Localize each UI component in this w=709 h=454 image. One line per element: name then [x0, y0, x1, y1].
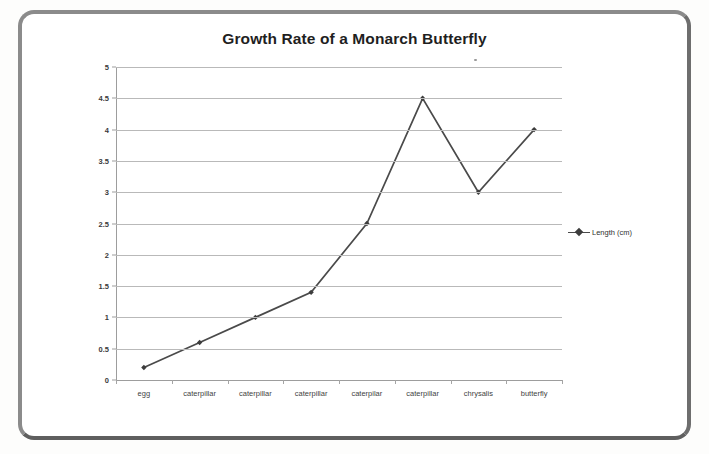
series-line — [144, 98, 534, 367]
y-axis-tick-mark — [112, 160, 116, 161]
y-axis-tick-label: 3 — [105, 188, 109, 197]
y-axis-tick-label: 5 — [105, 63, 109, 72]
plot-area: 00.511.522.533.544.55eggcaterpillarcater… — [116, 67, 562, 380]
gridline — [116, 98, 562, 99]
y-axis-tick-label: 1.5 — [99, 282, 109, 291]
x-axis-tick-mark — [172, 380, 173, 384]
y-axis-tick-mark — [112, 129, 116, 130]
y-axis-tick-label: 2.5 — [99, 219, 109, 228]
x-axis-tick-mark — [283, 380, 284, 384]
page-background: Growth Rate of a Monarch Butterfly 00.51… — [0, 0, 709, 454]
y-axis-tick-mark — [112, 348, 116, 349]
y-axis-tick-mark — [112, 192, 116, 193]
x-axis-tick-label: caterpillar — [295, 389, 328, 398]
x-axis-tick-mark — [228, 380, 229, 384]
line-chart: Growth Rate of a Monarch Butterfly 00.51… — [0, 0, 709, 454]
x-axis-tick-label: butterfly — [521, 389, 548, 398]
y-axis-tick-label: 1 — [105, 313, 109, 322]
y-axis-tick-label: 4 — [105, 125, 109, 134]
x-axis-tick-mark — [116, 380, 117, 384]
y-axis-tick-label: 4.5 — [99, 94, 109, 103]
x-axis-tick-label: egg — [138, 389, 151, 398]
y-axis-tick-mark — [112, 317, 116, 318]
chart-legend: Length (cm) — [568, 228, 632, 237]
gridline — [116, 224, 562, 225]
chart-title: Growth Rate of a Monarch Butterfly — [0, 30, 709, 48]
data-point-marker — [197, 340, 202, 345]
legend-label: Length (cm) — [592, 228, 632, 237]
x-axis-tick-mark — [339, 380, 340, 384]
gridline — [116, 161, 562, 162]
y-axis-tick-mark — [112, 223, 116, 224]
y-axis-tick-mark — [112, 286, 116, 287]
y-axis-tick-label: 0.5 — [99, 344, 109, 353]
x-axis-tick-label: chrysalis — [464, 389, 493, 398]
x-axis-tick-mark — [506, 380, 507, 384]
gridline — [116, 255, 562, 256]
gridline — [116, 317, 562, 318]
data-point-marker — [141, 365, 146, 370]
x-axis-tick-label: caterpillar — [183, 389, 216, 398]
legend-marker-icon — [568, 228, 590, 237]
y-axis-tick-mark — [112, 98, 116, 99]
x-axis-tick-mark — [562, 380, 563, 384]
y-axis-tick-mark — [112, 254, 116, 255]
x-axis-tick-mark — [451, 380, 452, 384]
gridline — [116, 67, 562, 68]
x-axis-tick-mark — [395, 380, 396, 384]
y-axis-tick-label: 2 — [105, 250, 109, 259]
gridline — [116, 130, 562, 131]
x-axis-tick-label: caterpilar — [351, 389, 382, 398]
y-axis-tick-label: 3.5 — [99, 156, 109, 165]
gridline — [116, 192, 562, 193]
scan-speck — [474, 59, 477, 61]
x-axis-tick-label: caterpillar — [239, 389, 272, 398]
gridline — [116, 286, 562, 287]
y-axis-tick-mark — [112, 67, 116, 68]
x-axis-tick-label: caterpillar — [406, 389, 439, 398]
y-axis-tick-label: 0 — [105, 376, 109, 385]
gridline — [116, 349, 562, 350]
